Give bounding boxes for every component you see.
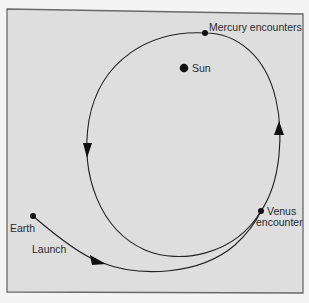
trajectory-diagram: Sun Mercury encounters Venus encounter E…: [0, 0, 309, 303]
sun-label: Sun: [192, 62, 211, 74]
earth-dot: [30, 213, 36, 219]
venus-encounter-dot: [258, 208, 264, 214]
sun-dot: [180, 64, 189, 73]
venus-label-line2: encounter: [256, 216, 303, 228]
earth-label: Earth: [10, 222, 35, 234]
launch-label: Launch: [32, 243, 67, 255]
mercury-encounter-dot: [202, 30, 208, 36]
mercury-label: Mercury encounters: [209, 21, 302, 33]
